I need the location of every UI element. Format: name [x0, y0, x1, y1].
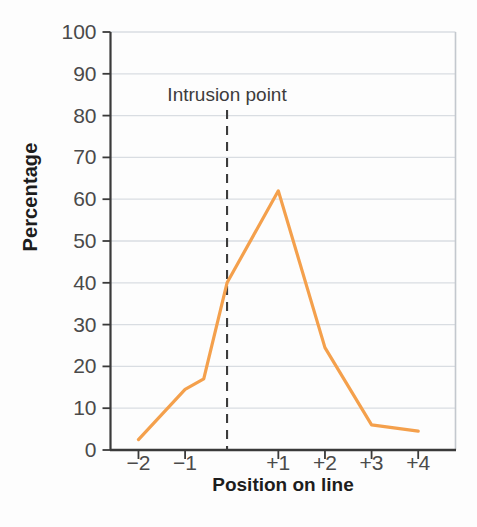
data-series-line [138, 191, 418, 440]
plot-area [0, 0, 477, 527]
gridlines [111, 32, 456, 408]
chart-figure: Percentage Position on line Intrusion po… [0, 0, 477, 527]
y-tick-marks [103, 32, 111, 450]
x-tick-marks [138, 450, 418, 459]
